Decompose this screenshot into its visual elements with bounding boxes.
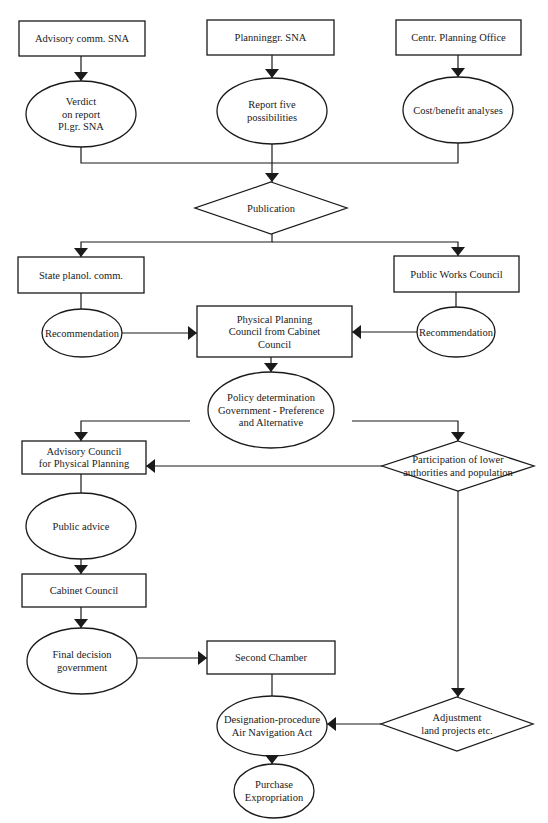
arrowhead-down-icon	[264, 363, 278, 372]
node-label: Public advice	[53, 521, 110, 532]
nodes-layer: Advisory comm. SNAPlanninggr. SNACentr. …	[18, 20, 534, 818]
node-label: Council	[258, 339, 291, 350]
arrowhead-down-icon	[74, 432, 88, 441]
connector-policy-determination-to-participation-lower-authorities	[352, 421, 458, 441]
arrowhead-right-icon	[188, 326, 197, 340]
arrowhead-left-icon	[327, 717, 336, 731]
node-cabinet-council: Cabinet Council	[22, 574, 146, 607]
node-label: for Physical Planning	[39, 458, 130, 469]
node-policy-determination: Policy determinationGovernment - Prefere…	[208, 372, 334, 448]
arrowhead-left-icon	[146, 459, 155, 473]
node-public-works-council: Public Works Council	[394, 256, 519, 292]
node-label: State planol. comm.	[39, 270, 123, 281]
arrowhead-down-icon	[74, 72, 88, 81]
node-label: Recommendation	[45, 328, 120, 339]
arrowhead-right-icon	[198, 651, 207, 665]
arrowhead-down-icon	[265, 173, 279, 182]
node-publication: Publication	[195, 182, 347, 234]
connector-cost-benefit-analyses-to-publication	[272, 143, 458, 163]
node-label: Pl.gr. SNA	[58, 121, 104, 132]
node-label: Advisory comm. SNA	[35, 33, 130, 44]
node-label: Public Works Council	[410, 269, 502, 280]
flowchart-canvas: Advisory comm. SNAPlanninggr. SNACentr. …	[0, 0, 548, 823]
arrowhead-down-icon	[451, 68, 465, 77]
node-label: and Alternative	[239, 417, 304, 428]
node-second-chamber: Second Chamber	[207, 641, 335, 674]
node-label: Purchase	[255, 779, 293, 790]
node-public-advice: Public advice	[26, 493, 136, 559]
node-recommendation-left: Recommendation	[42, 309, 122, 357]
node-label: Physical Planning	[237, 314, 313, 325]
connector-verdict-on-report-to-publication	[81, 147, 272, 163]
arrowhead-down-icon	[74, 565, 88, 574]
arrowhead-left-icon	[352, 325, 361, 339]
node-label: Cost/benefit analyses	[413, 105, 503, 116]
node-label: government	[57, 662, 107, 673]
node-planninggr-sna: Planninggr. SNA	[207, 20, 334, 55]
node-participation-lower-authorities: Participation of lowerauthorities and po…	[382, 441, 534, 491]
node-label: possibilities	[247, 112, 297, 123]
arrowhead-down-icon	[74, 619, 88, 628]
node-label: Final decision	[52, 649, 112, 660]
node-final-decision-government: Final decisiongovernment	[27, 628, 137, 694]
node-physical-planning-council: Physical PlanningCouncil from CabinetCou…	[197, 306, 352, 357]
node-adjustment-land-projects: Adjustmentland projects etc.	[381, 697, 533, 751]
arrowhead-down-icon	[74, 248, 88, 257]
node-label: on report	[62, 109, 100, 120]
node-label: Adjustment	[433, 712, 482, 723]
node-label: Expropriation	[245, 792, 304, 803]
node-label: Policy determination	[227, 392, 316, 403]
node-advisory-council-physical-planning: Advisory Councilfor Physical Planning	[22, 441, 146, 474]
node-label: Designation-procedure	[224, 714, 321, 725]
node-verdict-on-report: Verdicton reportPl.gr. SNA	[26, 81, 136, 147]
node-label: Government - Preference	[218, 405, 324, 416]
node-label: Second Chamber	[235, 652, 308, 663]
node-report-five-possibilities: Report fivepossibilities	[217, 78, 327, 144]
node-label: Verdict	[66, 96, 96, 107]
node-recommendation-right: Recommendation	[417, 307, 495, 357]
arrowhead-down-icon	[451, 247, 465, 256]
node-cost-benefit-analyses: Cost/benefit analyses	[403, 77, 513, 143]
node-label: Council from Cabinet	[229, 326, 321, 337]
arrowhead-down-icon	[265, 69, 279, 78]
node-label: Air Navigation Act	[232, 727, 313, 738]
node-label: Recommendation	[419, 327, 494, 338]
node-advisory-comm-sna: Advisory comm. SNA	[19, 21, 145, 56]
node-purchase-expropriation: PurchaseExpropriation	[234, 764, 314, 818]
node-designation-procedure: Designation-procedureAir Navigation Act	[217, 696, 327, 756]
node-label: Advisory Council	[47, 446, 122, 457]
node-label: Centr. Planning Office	[411, 32, 506, 43]
node-state-planol-comm: State planol. comm.	[18, 257, 144, 293]
node-centr-planning-office: Centr. Planning Office	[396, 20, 521, 55]
arrowhead-down-icon	[265, 755, 279, 764]
node-label: land projects etc.	[421, 725, 492, 736]
node-label: authorities and population	[403, 467, 513, 478]
connector-publication-to-public-works-council	[272, 242, 458, 256]
node-label: Planninggr. SNA	[235, 32, 307, 43]
node-label: Report five	[248, 99, 296, 110]
node-label: Publication	[247, 203, 296, 214]
node-label: Cabinet Council	[50, 585, 119, 596]
node-label: Participation of lower	[412, 454, 504, 465]
connector-publication-to-state-planol-comm	[81, 234, 272, 257]
connector-policy-determination-to-advisory-council-physical-planning	[81, 421, 190, 441]
arrowhead-down-icon	[451, 688, 465, 697]
arrowhead-down-icon	[451, 432, 465, 441]
